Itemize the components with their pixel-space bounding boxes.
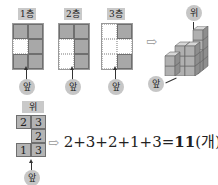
count-cell: 2 (31, 129, 46, 143)
formula: ⇨ 2+3+2+1+3=11(개) (48, 130, 218, 151)
count-cell: 3 (31, 115, 46, 129)
grid-cell-filled (117, 54, 132, 69)
top-label: 위 (186, 5, 202, 21)
front-label: 앞 (108, 79, 124, 95)
diagonal-arrow-icon (165, 78, 176, 84)
grid-cell-empty (59, 39, 74, 54)
grid-cell-empty (13, 39, 28, 54)
floor-3-label: 3층 (107, 8, 125, 20)
front-label: 앞 (65, 79, 81, 95)
floor-3-grid (101, 23, 133, 70)
grid-cell-empty (102, 24, 117, 39)
hollow-arrow-icon: ⇨ (146, 34, 157, 49)
count-cell: 2 (16, 115, 31, 129)
grid-cell-filled (74, 24, 89, 39)
formula-result: 11 (174, 133, 195, 151)
floor-1-grid (12, 23, 44, 70)
front-label: 앞 (19, 79, 35, 95)
grid-cell-filled (28, 24, 43, 39)
top-view-grid: 2 3 2 1 3 (16, 115, 46, 157)
count-cell: 1 (16, 143, 31, 157)
grid-cell-filled (59, 24, 74, 39)
front-label: 앞 (24, 170, 40, 185)
hollow-arrow-icon: ⇨ (48, 135, 59, 150)
grid-cell-filled (13, 24, 28, 39)
floor-2-grid (58, 23, 90, 70)
formula-expression: 2+3+2+1+3= (64, 133, 175, 151)
top-view-label: 위 (22, 101, 44, 113)
count-cell: 3 (31, 143, 46, 157)
floor-1-label: 1층 (18, 8, 36, 20)
grid-cell-filled (28, 39, 43, 54)
cube-stack-figure (160, 26, 218, 76)
empty-cell (16, 129, 31, 143)
grid-cell-filled (117, 24, 132, 39)
grid-cell-filled (28, 54, 43, 69)
floor-2-label: 2층 (64, 8, 82, 20)
grid-cell-filled (74, 39, 89, 54)
grid-cell-empty (102, 39, 117, 54)
front-label: 앞 (148, 76, 164, 92)
grid-cell-filled (74, 54, 89, 69)
formula-unit: (개) (195, 133, 218, 151)
grid-cell-empty (117, 39, 132, 54)
